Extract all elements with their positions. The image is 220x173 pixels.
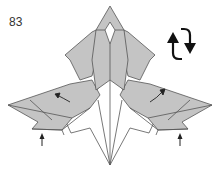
push-arrow-right xyxy=(178,133,183,146)
push-arrow-left xyxy=(40,133,45,146)
origami-model xyxy=(0,0,220,173)
origami-diagram-step: 83 xyxy=(0,0,220,173)
turn-over-icon xyxy=(167,29,196,59)
